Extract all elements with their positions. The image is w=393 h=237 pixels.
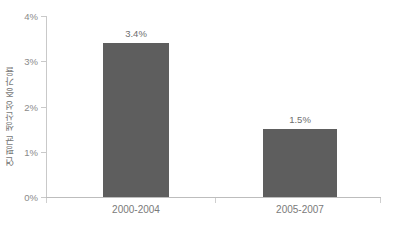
y-tick-mark-2	[41, 107, 46, 108]
bar-2000-2004	[103, 43, 169, 197]
y-tick-label-1: 1%	[6, 148, 38, 158]
y-tick-mark-3	[41, 61, 46, 62]
y-tick-mark-1	[41, 152, 46, 153]
bar-value-label-2005-2007: 1.5%	[265, 115, 335, 125]
x-category-label-2005-2007: 2005-2007	[250, 205, 350, 215]
y-tick-label-2: 2%	[6, 103, 38, 113]
caption-strip	[34, 231, 354, 237]
y-tick-label-3: 3%	[6, 57, 38, 67]
x-tick-mark-end	[380, 198, 381, 203]
y-axis-title: 연평균 생산성 증가율	[2, 52, 20, 178]
bar-chart-figure: 연평균 생산성 증가율 4% 3% 2% 1% 0% 3.4% 1.5% 200…	[0, 0, 393, 237]
x-axis-line	[46, 197, 381, 198]
y-axis-line	[46, 16, 47, 198]
y-tick-mark-4	[41, 16, 46, 17]
y-tick-label-0: 0%	[6, 193, 38, 203]
x-category-label-2000-2004: 2000-2004	[86, 205, 186, 215]
y-tick-label-4: 4%	[6, 12, 38, 22]
x-tick-mark-divider	[215, 198, 216, 203]
x-tick-mark-start	[46, 198, 47, 203]
bar-2005-2007	[263, 129, 337, 197]
bar-value-label-2000-2004: 3.4%	[101, 29, 171, 39]
